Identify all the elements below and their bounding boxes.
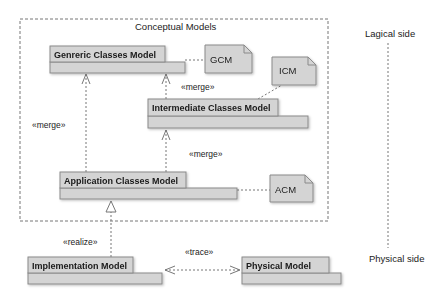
physical-side-label: Physical side	[369, 253, 424, 264]
package-physical-model[interactable]: Physical Model	[242, 257, 341, 284]
note-acm[interactable]: ACM	[270, 175, 313, 202]
package-label: Application Classes Model	[64, 176, 178, 186]
frame-label: Conceptual Models	[135, 21, 217, 32]
trace-label: «trace»	[185, 247, 214, 257]
package-label: Physical Model	[246, 261, 311, 271]
package-generic-classes-model[interactable]: Genreric Classes Model	[50, 46, 185, 73]
logical-side-label: Lagical side	[365, 28, 415, 39]
diagram-canvas: Conceptual Models «merge» «merge» «merge…	[0, 0, 439, 303]
realize-triangle-icon	[106, 201, 116, 212]
package-implementation-model[interactable]: Implementation Model	[28, 257, 162, 284]
package-label: Intermediate Classes Model	[152, 103, 271, 113]
package-intermediate-classes-model[interactable]: Intermediate Classes Model	[148, 99, 308, 128]
icm-anchor-line	[258, 85, 282, 99]
package-label: Genreric Classes Model	[54, 50, 156, 60]
connectors	[82, 43, 388, 274]
note-gcm[interactable]: GCM	[205, 45, 252, 73]
package-application-classes-model[interactable]: Application Classes Model	[60, 172, 237, 199]
note-label: GCM	[210, 54, 232, 65]
package-label: Implementation Model	[32, 261, 127, 271]
merge-label-left: «merge»	[32, 120, 66, 130]
merge-label-top: «merge»	[181, 82, 215, 92]
note-icm[interactable]: ICM	[272, 57, 316, 85]
realize-label: «realize»	[63, 237, 98, 247]
merge-label-middle: «merge»	[189, 149, 223, 159]
note-label: ICM	[279, 65, 297, 76]
note-label: ACM	[275, 184, 296, 195]
